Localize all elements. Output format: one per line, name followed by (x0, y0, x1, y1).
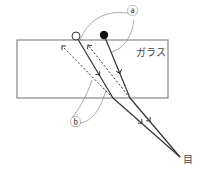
filled-circle-object (100, 31, 108, 39)
open-circle-object (72, 32, 80, 40)
eye-label: 目 (183, 155, 193, 165)
apparent-ray-right (88, 45, 130, 98)
leader-b-2 (72, 80, 92, 118)
apparent-ray-left (62, 46, 113, 98)
leader-a-2 (112, 20, 134, 52)
refraction-diagram (0, 0, 206, 180)
marker-a-label: ⓐ (127, 6, 138, 17)
refracted-ray-right (130, 98, 180, 157)
marker-b-label: ⓑ (70, 117, 81, 128)
leader-b-1 (80, 90, 106, 123)
glass-label: ガラス (136, 48, 166, 58)
refracted-ray-left (113, 98, 180, 157)
real-ray-open (76, 36, 113, 98)
